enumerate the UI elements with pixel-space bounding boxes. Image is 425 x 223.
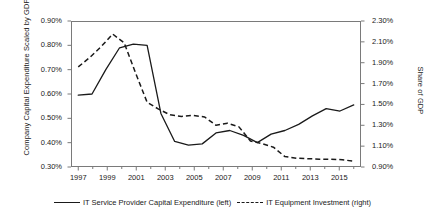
legend-label-it-equipment-investment: IT Equipment Investment (right) <box>266 198 371 207</box>
plot-lines <box>0 0 425 223</box>
series-line-it-service-provider-capex <box>78 44 354 145</box>
legend-item-it-equipment-investment: IT Equipment Investment (right) <box>237 198 371 207</box>
legend-label-it-service-provider-capex: IT Service Provider Capital Expenditure … <box>83 198 231 207</box>
legend-line-dashed-icon <box>237 202 263 203</box>
chart-legend: IT Service Provider Capital Expenditure … <box>0 198 425 207</box>
series-line-it-equipment-investment <box>78 34 354 161</box>
legend-line-solid-icon <box>54 202 80 203</box>
legend-item-it-service-provider-capex: IT Service Provider Capital Expenditure … <box>54 198 231 207</box>
tick-marks <box>68 21 365 171</box>
chart-container: Company Capital Expenditure Scaled by GD… <box>0 0 425 223</box>
